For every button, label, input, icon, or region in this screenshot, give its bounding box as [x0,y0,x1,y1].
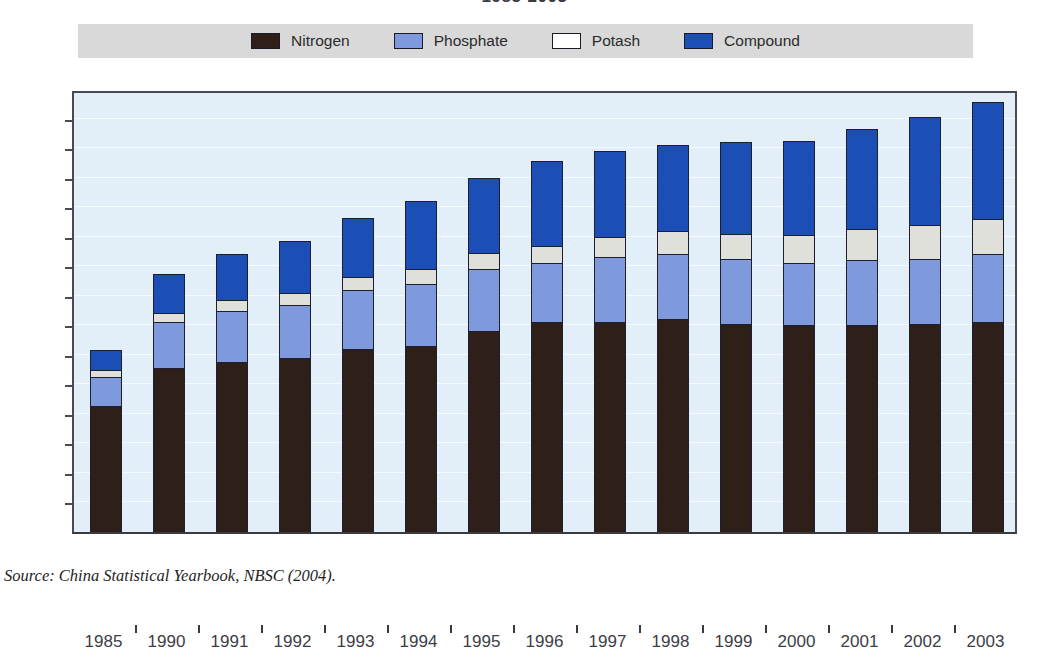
gridline [74,118,1015,119]
bar-segment-potash [279,293,311,305]
bar-segment-potash [216,300,248,310]
bar-segment-compound [279,241,311,293]
bar-2002[interactable] [909,117,941,532]
bar-segment-nitrogen [657,319,689,532]
x-axis-tick-mark [639,625,641,633]
bar-1992[interactable] [279,241,311,532]
legend-item-nitrogen[interactable]: Nitrogen [251,32,350,50]
bar-segment-phosphate [90,377,122,407]
bar-segment-potash [846,229,878,260]
legend-item-compound[interactable]: Compound [684,32,800,50]
x-axis-tick-mark [450,625,452,633]
bar-segment-phosphate [594,257,626,322]
bar-1998[interactable] [657,145,689,532]
bar-segment-potash [720,234,752,259]
legend-item-phosphate[interactable]: Phosphate [394,32,508,50]
bar-1996[interactable] [531,161,563,532]
legend-swatch-potash [552,33,581,49]
x-axis-tick-mark [261,625,263,633]
bar-segment-compound [531,161,563,245]
x-axis-tick-label: 2001 [841,632,879,651]
bar-1991[interactable] [216,254,248,532]
x-axis-tick-label: 2000 [778,632,816,651]
x-axis-tick-mark [576,625,578,633]
bar-segment-nitrogen [279,358,311,532]
bar-1997[interactable] [594,151,626,532]
bar-segment-potash [594,237,626,258]
bar-segment-potash [90,370,122,377]
x-axis-tick-label: 2002 [904,632,942,651]
x-axis-tick-label: 1999 [715,632,753,651]
bar-2001[interactable] [846,129,878,532]
bar-segment-nitrogen [909,324,941,532]
bar-2000[interactable] [783,141,815,532]
bar-segment-nitrogen [405,346,437,532]
bar-segment-potash [405,269,437,284]
bar-2003[interactable] [972,102,1004,532]
bar-segment-compound [216,254,248,300]
bar-segment-compound [594,151,626,237]
x-axis-tick-mark [324,625,326,633]
x-axis-tick-label: 1995 [463,632,501,651]
bar-segment-nitrogen [594,322,626,532]
y-axis-tick-mark [65,179,74,181]
x-axis-tick-label: 1990 [148,632,186,651]
x-axis-tick-mark [765,625,767,633]
bar-segment-phosphate [783,263,815,325]
bar-segment-nitrogen [846,325,878,532]
legend-label-phosphate: Phosphate [434,32,508,50]
y-axis-tick-mark [65,444,74,446]
x-axis-tick-label: 1993 [337,632,375,651]
bar-segment-compound [342,218,374,277]
bar-1999[interactable] [720,142,752,532]
x-axis-tick-mark [891,625,893,633]
bar-segment-nitrogen [90,406,122,532]
bar-segment-compound [972,102,1004,219]
y-axis-tick-mark [65,149,74,151]
y-axis-tick-mark [65,267,74,269]
x-axis-tick-label: 1991 [211,632,249,651]
y-axis-tick-mark [65,503,74,505]
bar-segment-phosphate [468,269,500,331]
y-axis-tick-mark [65,385,74,387]
x-axis-tick-label: 1985 [85,632,123,651]
y-axis-tick-mark [65,208,74,210]
bar-segment-nitrogen [783,325,815,532]
bar-segment-potash [531,246,563,264]
bar-1994[interactable] [405,201,437,532]
bar-segment-phosphate [972,254,1004,322]
bar-segment-compound [468,178,500,253]
x-axis-tick-label: 1996 [526,632,564,651]
bar-segment-phosphate [846,260,878,325]
bar-segment-compound [657,145,689,231]
bar-segment-nitrogen [468,331,500,532]
bar-segment-potash [153,313,185,322]
bar-segment-potash [342,277,374,290]
bar-1990[interactable] [153,274,185,532]
x-axis-tick-label: 1994 [400,632,438,651]
y-axis-tick-mark [65,474,74,476]
bar-segment-potash [468,253,500,269]
x-axis-tick-mark [513,625,515,633]
x-axis-tick-label: 1992 [274,632,312,651]
legend-label-nitrogen: Nitrogen [291,32,350,50]
bar-segment-phosphate [279,305,311,358]
bar-segment-phosphate [153,322,185,368]
bar-segment-compound [720,142,752,234]
chart-title: 1985-2003 [0,0,1049,7]
bar-segment-nitrogen [720,324,752,532]
legend-label-compound: Compound [724,32,800,50]
bar-segment-potash [783,235,815,263]
bar-1985[interactable] [90,350,122,532]
chart-legend: NitrogenPhosphatePotashCompound [78,24,973,58]
bar-segment-phosphate [405,284,437,346]
bar-segment-compound [90,350,122,369]
y-axis-tick-mark [65,415,74,417]
bar-segment-phosphate [657,254,689,319]
bar-1995[interactable] [468,178,500,532]
bar-segment-phosphate [531,263,563,322]
x-axis-tick-mark [387,625,389,633]
legend-item-potash[interactable]: Potash [552,32,640,50]
bar-1993[interactable] [342,218,374,533]
bar-segment-nitrogen [342,349,374,532]
